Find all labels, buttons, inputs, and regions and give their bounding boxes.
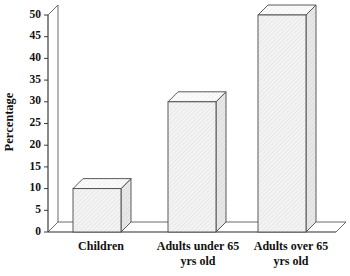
bar-adults-over-65-top-face bbox=[258, 5, 316, 15]
y-tick-label-10: 10 bbox=[30, 181, 42, 193]
y-axis-title: Percentage bbox=[2, 92, 16, 151]
y-tick-labels: 0 5 10 15 20 25 30 35 40 45 50 bbox=[30, 8, 42, 237]
bar-adults-over-65-front-face bbox=[258, 15, 306, 232]
category-label-adults-over-65-line1: Adults over 65 bbox=[254, 239, 328, 253]
bar-adults-over-65-side-face bbox=[306, 5, 316, 232]
category-label-adults-under-65-line2: yrs old bbox=[180, 254, 215, 268]
y-axis bbox=[48, 5, 58, 232]
category-label-adults-over-65-line2: yrs old bbox=[273, 254, 308, 268]
y-axis-top-depth bbox=[48, 5, 58, 15]
category-label-children: Children bbox=[78, 239, 124, 253]
bar-adults-under-65-front-face bbox=[168, 102, 216, 232]
y-tick-marks bbox=[44, 15, 48, 232]
x-axis-origin-depth bbox=[48, 222, 58, 232]
chart-canvas: 0 5 10 15 20 25 30 35 40 45 50 Percentag… bbox=[0, 0, 350, 276]
x-axis-category-labels: Children Adults under 65 yrs old Adults … bbox=[78, 239, 328, 268]
y-tick-label-5: 5 bbox=[35, 203, 41, 215]
y-tick-label-35: 35 bbox=[30, 73, 42, 85]
y-tick-label-0: 0 bbox=[35, 225, 41, 237]
y-tick-label-30: 30 bbox=[30, 94, 42, 106]
bar-children-top-face bbox=[73, 179, 131, 189]
category-label-adults-under-65-line1: Adults under 65 bbox=[157, 239, 239, 253]
y-tick-label-40: 40 bbox=[30, 51, 42, 63]
bar-children-front-face bbox=[73, 189, 121, 232]
y-tick-label-50: 50 bbox=[30, 8, 42, 20]
bar-adults-under-65-top-face bbox=[168, 92, 226, 102]
bar-adults-over-65 bbox=[258, 5, 316, 232]
y-tick-label-20: 20 bbox=[30, 138, 42, 150]
bar-adults-under-65-side-face bbox=[216, 92, 226, 232]
y-tick-label-25: 25 bbox=[30, 116, 42, 128]
x-axis-right-depth bbox=[336, 222, 346, 232]
bar-adults-under-65 bbox=[168, 92, 226, 232]
bar-chart-figure: 0 5 10 15 20 25 30 35 40 45 50 Percentag… bbox=[0, 0, 350, 276]
bar-children bbox=[73, 179, 131, 232]
y-tick-label-15: 15 bbox=[30, 160, 42, 172]
y-tick-label-45: 45 bbox=[30, 29, 42, 41]
